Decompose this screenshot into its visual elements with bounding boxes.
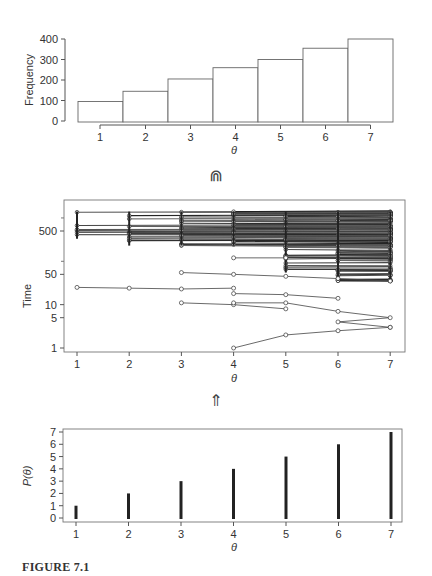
- plot-frame: [64, 200, 405, 352]
- x-axis-label: θ: [231, 144, 237, 156]
- x-tick-label: 2: [126, 358, 132, 370]
- x-tick-label: 5: [277, 131, 283, 143]
- histogram-panel: 0100200300400Frequency1234567θ: [0, 0, 432, 160]
- histogram-bar: [258, 60, 303, 123]
- x-tick-label: 7: [388, 528, 394, 540]
- arrow-up-double-cap: ⋒: [0, 166, 432, 185]
- y-tick-label: 200: [40, 74, 58, 86]
- y-tick-label: 0: [52, 115, 58, 127]
- y-tick-label: 2: [50, 487, 56, 499]
- trajectory-point: [232, 256, 236, 260]
- x-tick-label: 5: [283, 528, 289, 540]
- trajectory-point: [232, 346, 236, 350]
- trajectory-line: [234, 327, 391, 348]
- trajectory-point: [336, 296, 340, 300]
- x-tick-label: 1: [74, 358, 80, 370]
- x-tick-label: 1: [97, 131, 103, 143]
- trajectory-point: [336, 320, 340, 324]
- histogram-chart: 0100200300400Frequency1234567θ: [0, 0, 432, 160]
- trajectory-point: [75, 285, 79, 289]
- y-tick-label: 7: [50, 426, 56, 438]
- histogram-bar: [168, 79, 213, 122]
- x-tick-label: 6: [335, 358, 341, 370]
- trajectory-point: [336, 277, 340, 281]
- y-tick-label: 10: [45, 299, 57, 311]
- x-tick-label: 4: [232, 131, 238, 143]
- x-tick-label: 1: [73, 528, 79, 540]
- y-tick-label: 1: [50, 500, 56, 512]
- x-tick-label: 4: [230, 528, 236, 540]
- histogram-bar: [213, 68, 258, 122]
- y-tick-label: 5: [51, 312, 57, 324]
- x-tick-label: 2: [142, 131, 148, 143]
- trajectory-point: [127, 286, 131, 290]
- dense-trajectories: [75, 210, 392, 283]
- trajectory-line: [234, 303, 391, 327]
- y-tick-label: 5: [50, 451, 56, 463]
- trajectory-line: [181, 303, 285, 309]
- trajectory-point: [284, 256, 288, 260]
- figure-caption: FIGURE 7.1: [22, 560, 90, 575]
- y-tick-label: 300: [40, 54, 58, 66]
- histogram-bar: [78, 102, 123, 122]
- trajectory-point: [388, 316, 392, 320]
- y-tick-label: 4: [50, 463, 56, 475]
- y-tick-label: 100: [40, 95, 58, 107]
- y-tick-label: 1: [51, 342, 57, 354]
- x-tick-label: 3: [187, 131, 193, 143]
- x-tick-label: 3: [178, 528, 184, 540]
- histogram-bar: [303, 48, 348, 122]
- x-tick-label: 5: [283, 358, 289, 370]
- trajectory-point: [179, 271, 183, 275]
- trajectory-point: [388, 279, 392, 283]
- trajectory-point: [336, 309, 340, 313]
- x-tick-label: 7: [367, 131, 373, 143]
- arrow-up-double: ⇑: [0, 391, 432, 410]
- y-axis-label: Time: [21, 284, 33, 308]
- x-tick-label: 4: [231, 358, 237, 370]
- trajectory-line: [181, 273, 390, 282]
- x-tick-label: 6: [335, 528, 341, 540]
- x-axis-label: θ: [231, 541, 237, 553]
- trajectory-point: [284, 333, 288, 337]
- trajectory-point: [232, 303, 236, 307]
- trajectory-point: [284, 274, 288, 278]
- trajectory-point: [336, 329, 340, 333]
- y-tick-label: 500: [39, 225, 57, 237]
- trajectory-line: [77, 287, 234, 289]
- x-tick-label: 7: [387, 358, 393, 370]
- y-axis-label: P(θ): [21, 465, 33, 486]
- x-tick-label: 6: [322, 131, 328, 143]
- y-tick-label: 3: [50, 475, 56, 487]
- plot-frame: [63, 429, 402, 522]
- trajectory-point: [284, 307, 288, 311]
- x-axis-label: θ: [231, 372, 237, 384]
- trajectory-point: [388, 325, 392, 329]
- trajectory-point: [284, 293, 288, 297]
- trajectory-point: [232, 272, 236, 276]
- y-tick-label: 50: [45, 268, 57, 280]
- trajectory-point: [388, 325, 392, 329]
- x-tick-label: 3: [178, 358, 184, 370]
- y-tick-label: 6: [50, 438, 56, 450]
- trajectory-point: [232, 301, 236, 305]
- y-tick-label: 0: [50, 512, 56, 524]
- trajectory-line: [234, 294, 338, 299]
- y-axis-label: Frequency: [23, 54, 35, 106]
- histogram-bar: [123, 91, 168, 122]
- trajectory-point: [232, 292, 236, 296]
- x-tick-label: 2: [125, 528, 131, 540]
- trajectory-point: [179, 301, 183, 305]
- histogram-bar: [348, 39, 393, 122]
- trajectory-point: [284, 301, 288, 305]
- trajectory-point: [179, 287, 183, 291]
- trajectory-point: [232, 286, 236, 290]
- y-tick-label: 400: [40, 33, 58, 45]
